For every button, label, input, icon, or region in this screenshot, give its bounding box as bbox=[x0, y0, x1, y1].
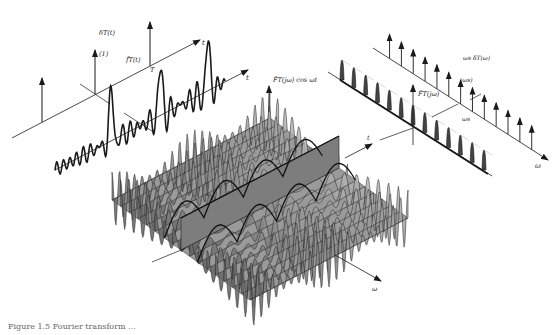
figure-caption: Figure 1.5 Fourier transform ... bbox=[8, 322, 136, 331]
surface-label: F̃T(jω) cos ωt bbox=[272, 76, 318, 84]
omega-spacing-label: ωs bbox=[462, 115, 470, 122]
right-panel: ω ωs δT(ω) (ωs) ωs F̃T(jω) bbox=[328, 34, 548, 176]
time-frequency-surface bbox=[112, 90, 408, 325]
surface-axis-omega bbox=[335, 255, 381, 281]
period-label: T bbox=[150, 66, 155, 74]
axis-t-label-lower: t bbox=[246, 74, 249, 82]
fourier-diagram: t δT(t) (1) T t f̃T(t) ω ωs δT(ω) (ωs) ω… bbox=[0, 0, 559, 335]
spectrum-pulse bbox=[364, 75, 368, 95]
axis-t-label-upper: t bbox=[202, 39, 205, 47]
omega-delta-label: ωs δT(ω) bbox=[463, 54, 491, 61]
impulse-weight-label: (1) bbox=[99, 50, 109, 58]
spectrum-pulse bbox=[435, 120, 439, 140]
spectrum-cross-line bbox=[432, 104, 458, 117]
spectrum-pulse bbox=[376, 83, 380, 103]
signal-label: f̃T(t) bbox=[125, 56, 141, 64]
omega-spacing-tick bbox=[470, 94, 481, 100]
spectrum-pulse bbox=[447, 128, 451, 148]
spectrum-pulse bbox=[470, 143, 474, 163]
impulse-train-left bbox=[42, 22, 150, 122]
surface-axis-neg-omega bbox=[152, 248, 186, 262]
surface-axis-omega-label: ω bbox=[372, 285, 378, 293]
spectrum-pulse bbox=[482, 150, 486, 170]
spectrum-pulse bbox=[340, 60, 344, 80]
delta-t-label: δT(t) bbox=[99, 29, 115, 37]
spectrum-pulse bbox=[352, 68, 356, 88]
surface-axis-t-label: t bbox=[367, 134, 370, 142]
spectrum-pulse bbox=[387, 90, 391, 110]
impulse-train-right bbox=[390, 34, 532, 149]
surface-axis-t bbox=[345, 144, 372, 158]
spectrum-pulse bbox=[399, 98, 403, 118]
omega-weight-label: (ωs) bbox=[460, 76, 473, 83]
spectrum-pulse bbox=[423, 113, 427, 133]
spectrum-label: F̃T(jω) bbox=[417, 90, 440, 98]
spectrum-pulse bbox=[458, 135, 462, 155]
t-axis-extension bbox=[380, 128, 413, 140]
spectrum-baseline bbox=[340, 80, 488, 174]
axis-omega-label-upper: ω bbox=[535, 162, 541, 170]
